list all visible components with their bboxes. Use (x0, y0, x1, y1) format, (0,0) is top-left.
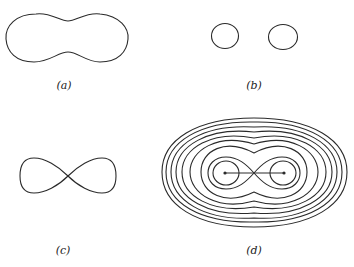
panel-a-label: (a) (56, 79, 71, 92)
left-oval (212, 24, 239, 49)
panel-b-shapes (212, 24, 298, 50)
panel-c-label: (c) (56, 244, 71, 257)
right-oval (269, 25, 298, 50)
focus-right-point (282, 171, 285, 174)
panel-d-contours (162, 118, 347, 227)
panel-d-label: (d) (246, 244, 262, 257)
panel-a-shape (6, 14, 128, 62)
focus-left-point (223, 171, 226, 174)
figure-canvas (0, 0, 354, 267)
panel-c-shape (20, 158, 116, 193)
panel-b-label: (b) (246, 79, 262, 92)
